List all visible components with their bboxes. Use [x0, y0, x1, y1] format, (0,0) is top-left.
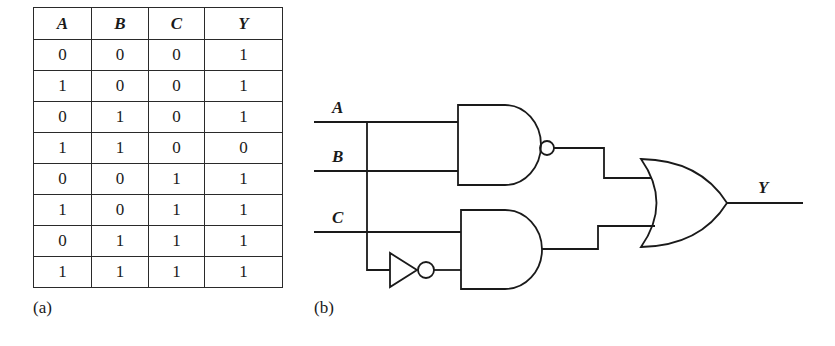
- nand-gate-icon: [458, 105, 541, 185]
- input-label-a: A: [331, 98, 343, 117]
- output-label-y: Y: [758, 178, 770, 197]
- or-gate-icon: [641, 159, 727, 247]
- not-gate-icon: [390, 253, 417, 287]
- wire-a-branch: [367, 122, 390, 270]
- nand-bubble-icon: [540, 141, 554, 155]
- and-gate-icon: [461, 210, 542, 289]
- input-label-b: B: [331, 147, 343, 166]
- input-label-c: C: [332, 208, 344, 227]
- logic-circuit: A B C Y: [0, 0, 835, 346]
- not-bubble-icon: [418, 262, 434, 278]
- wire-and-out: [542, 226, 655, 249]
- wire-nand-out: [554, 148, 652, 178]
